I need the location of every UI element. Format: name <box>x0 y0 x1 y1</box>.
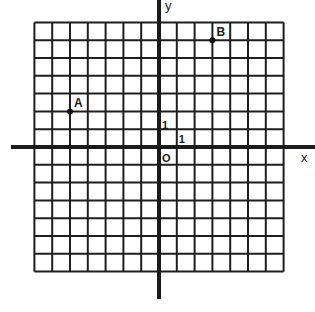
x-axis-label: x <box>301 150 308 165</box>
point-b-label: B <box>216 25 225 39</box>
points: AB <box>67 25 225 114</box>
y-axis-label: y <box>165 0 172 13</box>
y-unit-label: 1 <box>162 119 168 131</box>
point-a-label: A <box>74 96 83 110</box>
x-unit-label: 1 <box>179 133 185 145</box>
point-b-marker <box>209 37 215 43</box>
point-a-marker <box>67 108 73 114</box>
origin-label: O <box>162 152 171 164</box>
coordinate-grid-svg: x y O 1 1 AB <box>0 0 315 312</box>
coordinate-plane: x y O 1 1 AB <box>0 0 315 312</box>
